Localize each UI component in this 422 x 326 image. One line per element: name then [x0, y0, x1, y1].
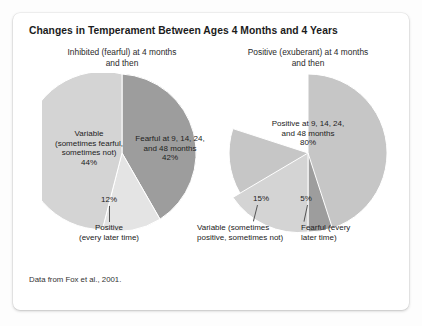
chart-positive-heading-line2: and then	[213, 58, 403, 69]
page-title: Changes in Temperament Between Ages 4 Mo…	[29, 25, 338, 36]
source-note: Data from Fox et al., 2001.	[29, 275, 121, 284]
label-fearful-inhibited: Fearful at 9, 14, 24, and 48 months 42%	[118, 134, 222, 163]
figure-card: Changes in Temperament Between Ages 4 Mo…	[13, 13, 409, 310]
callout-fearful-line2: later time)	[301, 233, 397, 243]
chart-inhibited-heading-line2: and then	[27, 58, 217, 69]
label-fearful-line2: and 48 months	[118, 144, 222, 154]
label-positive-value: 80%	[238, 138, 378, 148]
callout-fearful-text: Fearful (every later time)	[301, 223, 397, 242]
positive-pie-svg	[228, 73, 388, 233]
callout-variable-text: Variable (sometimes positive, sometimes …	[197, 223, 317, 242]
leader-line-positive	[109, 206, 110, 222]
inhibited-pie-wrap: Variable (sometimes fearful, sometimes n…	[42, 73, 202, 233]
callout-variable-line1: Variable (sometimes	[197, 223, 317, 233]
label-fearful-line1: Fearful at 9, 14, 24,	[118, 134, 222, 144]
callout-fearful-line1: Fearful (every	[301, 223, 397, 233]
positive-pie-wrap: Positive at 9, 14, 24, and 48 months 80%	[228, 73, 388, 233]
chart-inhibited-heading: Inhibited (fearful) at 4 months and then	[27, 47, 217, 68]
callout-positive-line2: (every later time)	[47, 233, 171, 243]
page-background: Changes in Temperament Between Ages 4 Mo…	[0, 0, 422, 326]
label-positive-right: Positive at 9, 14, 24, and 48 months 80%	[238, 119, 378, 148]
callout-positive-line1: Positive	[47, 223, 171, 233]
callout-variable-line2: positive, sometimes not)	[197, 233, 317, 243]
callout-positive-text: Positive (every later time)	[47, 223, 171, 242]
callout-positive-value: 12%	[89, 195, 129, 205]
chart-positive-heading: Positive (exuberant) at 4 months and the…	[213, 47, 403, 68]
callout-variable-value: 15%	[241, 194, 281, 204]
label-positive-line2: and 48 months	[238, 129, 378, 139]
label-positive-line1: Positive at 9, 14, 24,	[238, 119, 378, 129]
callout-fearful-value: 5%	[291, 194, 321, 204]
chart-inhibited-heading-line1: Inhibited (fearful) at 4 months	[27, 47, 217, 58]
chart-positive-heading-line1: Positive (exuberant) at 4 months	[213, 47, 403, 58]
label-fearful-value: 42%	[118, 153, 222, 163]
